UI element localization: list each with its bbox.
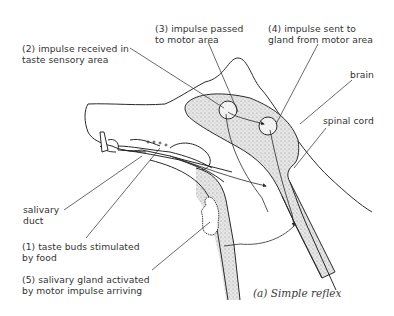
label-spinal-cord: spinal cord: [323, 116, 374, 127]
label-step4-impulse-to-gland: (4) impulse sent to gland from motor are…: [268, 24, 373, 45]
label-brain: brain: [350, 70, 374, 81]
label-step3-impulse-to-motor-area: (3) impulse passed to motor area: [155, 24, 243, 45]
label-step2-taste-sensory-area: (2) impulse received in taste sensory ar…: [22, 44, 129, 65]
label-salivary-duct: salivary duct: [23, 205, 59, 226]
label-step1-taste-buds: (1) taste buds stimulated by food: [22, 242, 140, 263]
figure-caption: (a) Simple reflex: [253, 287, 341, 299]
simple-reflex-diagram: (3) impulse passed to motor area (4) imp…: [0, 0, 394, 316]
label-step5-salivary-gland: (5) salivary gland activated by motor im…: [22, 275, 150, 296]
motor-area: [259, 117, 277, 135]
